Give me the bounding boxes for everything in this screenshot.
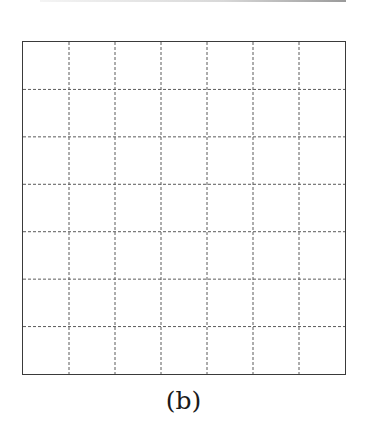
figure-caption: (b) [0,386,367,416]
grid-frame [22,41,346,375]
previous-figure-edge [40,0,346,2]
grid-lines [23,42,345,374]
